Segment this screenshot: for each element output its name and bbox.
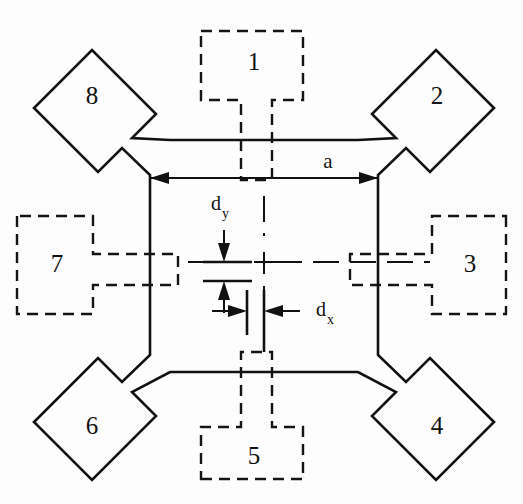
dimension-a-label: a xyxy=(323,149,333,173)
dy-arrow-head-bottom xyxy=(218,281,230,300)
dimension-a: a xyxy=(150,149,378,184)
dx-arrow-head-right xyxy=(264,305,283,317)
figure-root: a d y xyxy=(0,0,523,504)
label-pad-1: 1 xyxy=(248,48,261,75)
dashed-region-3 xyxy=(350,216,506,314)
label-pad-6: 6 xyxy=(86,412,99,439)
label-pad-2: 2 xyxy=(431,82,444,109)
dimension-a-arrow-right xyxy=(359,172,378,184)
label-pad-4: 4 xyxy=(431,412,444,439)
dimension-dy-label-sub: y xyxy=(222,206,229,221)
label-pad-5: 5 xyxy=(248,442,261,469)
dx-arrow-head-left xyxy=(228,305,247,317)
region-3-outline xyxy=(350,216,506,314)
dimension-dy: d y xyxy=(203,192,252,313)
dimension-a-arrow-left xyxy=(150,172,169,184)
cross-structure-diagram: a d y xyxy=(0,0,523,504)
dimension-dy-label-base: d xyxy=(211,192,221,214)
label-pad-3: 3 xyxy=(464,250,477,277)
center-cross-marker xyxy=(254,252,276,274)
region-7-outline xyxy=(17,216,178,314)
dimension-dx-label-base: d xyxy=(316,298,326,320)
dimension-dx-label-sub: x xyxy=(327,312,334,327)
label-pad-7: 7 xyxy=(51,250,64,277)
label-pad-8: 8 xyxy=(86,82,99,109)
dy-arrow-head-top xyxy=(218,243,230,262)
dashed-region-7 xyxy=(17,216,178,314)
dimension-dx: d x xyxy=(212,290,334,352)
